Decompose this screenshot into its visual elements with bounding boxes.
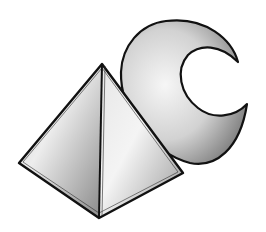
illustration-canvas: Pyramid and crescent moon	[0, 0, 266, 232]
pyramid-and-moon-drawing	[0, 0, 266, 232]
